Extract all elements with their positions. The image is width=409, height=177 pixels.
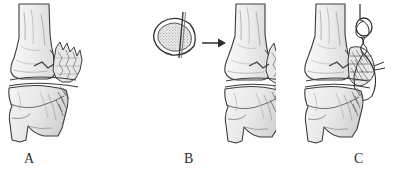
figure-root: A <box>0 0 409 177</box>
distal-tibia <box>225 4 270 80</box>
panel-b: B <box>136 0 276 177</box>
panel-a: A <box>0 0 136 177</box>
panel-c-illustration <box>276 0 409 150</box>
panel-b-illustration <box>136 0 276 150</box>
distal-tibia <box>305 4 350 80</box>
panel-c: C <box>276 0 409 177</box>
talus-and-calcaneus <box>305 86 363 143</box>
panel-a-illustration <box>0 0 136 150</box>
transfer-arrow <box>202 39 226 48</box>
bone-cross-section-inset <box>154 12 196 58</box>
panel-c-label: C <box>276 150 409 168</box>
talus-and-calcaneus <box>225 86 276 143</box>
